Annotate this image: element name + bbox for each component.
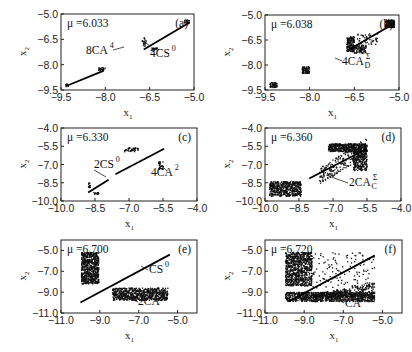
x-tick-label: −6.5 (344, 91, 365, 103)
x-axis-ticks: −10.0−8.5−7.0−5.5−4.0 (252, 198, 412, 214)
y-tick-label: −9.5 (241, 84, 262, 96)
y-tick-label: −8.5 (37, 177, 58, 189)
panel-label: (d) (382, 131, 396, 144)
x-tick-label: −9.0 (294, 314, 315, 326)
panel-label: (e) (178, 243, 191, 256)
mu-value-label: μ =6.038 (271, 18, 313, 31)
y-axis-ticks: −5.0−7.0−9.0−11.0 (236, 244, 268, 319)
x-axis-ticks: −10.0−8.5−7.0−5.5−4.0 (48, 198, 208, 214)
y-tick-label: −6.5 (37, 33, 58, 45)
y-tick-label: −7.0 (37, 265, 58, 277)
panel-a: −9.5−8.0−6.5−5.0−5.0−6.5−8.0−9.5x1x2μ =6… (16, 8, 205, 121)
y-tick-label: −7.0 (37, 159, 58, 171)
scatter-points (285, 252, 375, 302)
orbit-annotation: 4CA2 (151, 163, 179, 178)
y-axis-label: x2 (220, 47, 235, 57)
y-axis-ticks: −5.0−6.5−8.0−9.5 (37, 8, 64, 96)
x-tick-label: −5.5 (153, 202, 174, 214)
y-tick-label: −4.0 (37, 122, 58, 134)
panel-e: −11.0−9.0−7.0−5.0−5.0−7.0−9.0−11.0x1x2μ … (16, 240, 197, 344)
x-axis-ticks: −9.5−8.0−6.5−5.0 (51, 87, 205, 103)
panel-label: (c) (178, 131, 191, 144)
x-axis-label: x1 (328, 106, 338, 121)
figure: −9.5−8.0−6.5−5.0−5.0−6.5−8.0−9.5x1x2μ =6… (0, 0, 412, 352)
y-axis-ticks: −5.0−7.0−9.0−11.0 (32, 244, 64, 319)
scatter-points (81, 252, 169, 301)
y-tick-label: −9.0 (37, 286, 58, 298)
mu-value-label: μ =6.700 (67, 243, 109, 256)
x-tick-label: −7.0 (333, 314, 354, 326)
y-axis-label: x2 (220, 271, 235, 281)
x-tick-label: −4.0 (391, 202, 412, 214)
panel-label: (f) (385, 243, 397, 256)
panel-b: −9.5−8.0−6.5−5.0−5.0−6.5−8.0−9.5x1x2μ =6… (220, 9, 410, 121)
panel-c: −10.0−8.5−7.0−5.5−4.0−4.0−5.5−7.0−8.5−10… (16, 122, 208, 232)
x-axis-label: x1 (124, 106, 134, 121)
svg-text:CAΣ: CAΣ (345, 294, 368, 309)
y-axis-label: x2 (16, 271, 31, 281)
x-axis-label: x1 (329, 217, 339, 232)
y-tick-label: −6.5 (241, 34, 262, 46)
x-tick-label: −8.5 (289, 202, 310, 214)
y-tick-label: −10.0 (235, 195, 262, 207)
y-axis-label: x2 (16, 47, 31, 57)
y-tick-label: −5.0 (37, 244, 58, 256)
svg-text:4CA2: 4CA2 (151, 163, 179, 178)
x-tick-label: −7.0 (323, 202, 344, 214)
y-axis-ticks: −5.0−6.5−8.0−9.5 (241, 9, 268, 96)
y-tick-label: −8.0 (37, 59, 58, 71)
y-tick-label: −8.5 (241, 177, 262, 189)
svg-text:2CS0: 2CS0 (94, 155, 120, 170)
panel-f: −11.0−9.0−7.0−5.0−5.0−7.0−9.0−11.0x1x2μ … (220, 240, 402, 344)
x-axis-ticks: −9.5−8.0−6.5−5.0 (255, 87, 410, 103)
x-tick-label: −5.0 (184, 91, 205, 103)
svg-text:4CAΣD: 4CAΣD (342, 52, 371, 70)
y-axis-label: x2 (16, 159, 31, 169)
y-tick-label: −5.5 (241, 140, 262, 152)
x-tick-label: −8.5 (85, 202, 106, 214)
x-axis-label: x1 (330, 329, 340, 344)
y-tick-label: −5.5 (37, 140, 58, 152)
y-tick-label: −9.0 (241, 286, 262, 298)
orbit-annotation: 8CA4 (86, 41, 124, 56)
y-tick-label: −7.0 (241, 159, 262, 171)
panel-d: −10.0−8.5−7.0−5.5−4.0−4.0−5.5−7.0−8.5−10… (220, 122, 412, 232)
y-tick-label: −10.0 (31, 195, 58, 207)
orbit-annotation: 2CAΣC (326, 173, 378, 191)
scatter-points (65, 19, 190, 87)
y-axis-label: x2 (220, 159, 235, 169)
y-tick-label: −5.0 (37, 8, 58, 20)
mu-value-label: μ =6.033 (67, 17, 109, 30)
panel-label: (a) (175, 17, 188, 30)
svg-text:CS0: CS0 (149, 260, 169, 275)
y-tick-label: −5.0 (241, 9, 262, 21)
panel-label: (b) (380, 18, 394, 31)
y-tick-label: −11.0 (236, 307, 262, 319)
x-axis-label: x1 (125, 217, 135, 232)
x-tick-label: −9.0 (89, 314, 110, 326)
x-tick-label: −7.0 (128, 314, 149, 326)
x-axis-label: x1 (125, 329, 135, 344)
y-tick-label: −9.5 (37, 84, 58, 96)
svg-text:8CA4: 8CA4 (86, 41, 114, 56)
x-tick-label: −4.0 (187, 202, 208, 214)
x-tick-label: −6.5 (139, 91, 160, 103)
y-axis-ticks: −4.0−5.5−7.0−8.5−10.0 (235, 122, 268, 207)
svg-text:4CS0: 4CS0 (150, 44, 176, 59)
x-tick-label: −7.0 (119, 202, 140, 214)
y-tick-label: −7.0 (241, 265, 262, 277)
y-tick-label: −5.0 (241, 244, 262, 256)
orbit-annotation: 4CS0 (142, 40, 176, 59)
y-tick-label: −11.0 (32, 307, 58, 319)
x-tick-label: −8.0 (299, 91, 320, 103)
svg-text:2CA1: 2CA1 (138, 292, 166, 307)
y-tick-label: −4.0 (241, 122, 262, 134)
scatter-points (269, 139, 368, 197)
x-tick-label: −8.0 (95, 91, 116, 103)
orbit-annotation: 4CAΣD (335, 52, 371, 70)
x-axis-ticks: −11.0−9.0−7.0−5.0 (48, 310, 188, 326)
mu-value-label: μ =6.720 (271, 243, 313, 256)
x-tick-label: −5.5 (357, 202, 378, 214)
x-axis-ticks: −11.0−9.0−7.0−5.0 (252, 310, 393, 326)
mu-value-label: μ =6.330 (67, 131, 109, 144)
